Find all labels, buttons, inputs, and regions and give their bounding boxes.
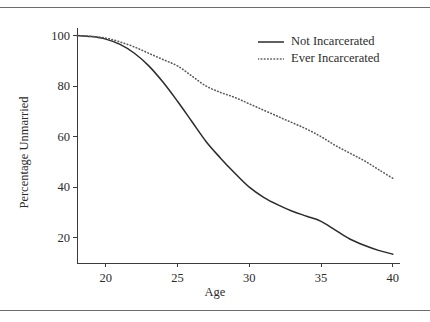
x-tick-label: 20 bbox=[99, 271, 112, 286]
x-tick-label: 35 bbox=[315, 271, 328, 286]
legend-entry-ever-incarcerated: Ever Incarcerated bbox=[258, 50, 379, 67]
dotted-line-sample bbox=[258, 54, 284, 64]
legend-label-ever-incarcerated: Ever Incarcerated bbox=[291, 51, 379, 66]
solid-line-sample bbox=[258, 37, 284, 47]
legend-label-not-incarcerated: Not Incarcerated bbox=[291, 34, 375, 49]
x-tick-label: 25 bbox=[171, 271, 184, 286]
y-tick-label: 100 bbox=[20, 28, 70, 43]
legend-entry-not-incarcerated: Not Incarcerated bbox=[258, 33, 379, 50]
x-tick-label: 40 bbox=[387, 271, 400, 286]
x-tick-label: 30 bbox=[243, 271, 256, 286]
data-series-group bbox=[77, 36, 393, 255]
series-line-not-incarcerated bbox=[77, 36, 393, 255]
y-axis-ticks bbox=[73, 36, 77, 238]
x-axis-ticks bbox=[106, 263, 393, 267]
x-axis-title: Age bbox=[0, 285, 430, 300]
figure-container: 20406080100 2025303540 Percentage Unmarr… bbox=[0, 0, 430, 322]
y-axis-title: Percentage Unmarried bbox=[17, 63, 32, 243]
chart-legend: Not Incarcerated Ever Incarcerated bbox=[258, 33, 379, 67]
